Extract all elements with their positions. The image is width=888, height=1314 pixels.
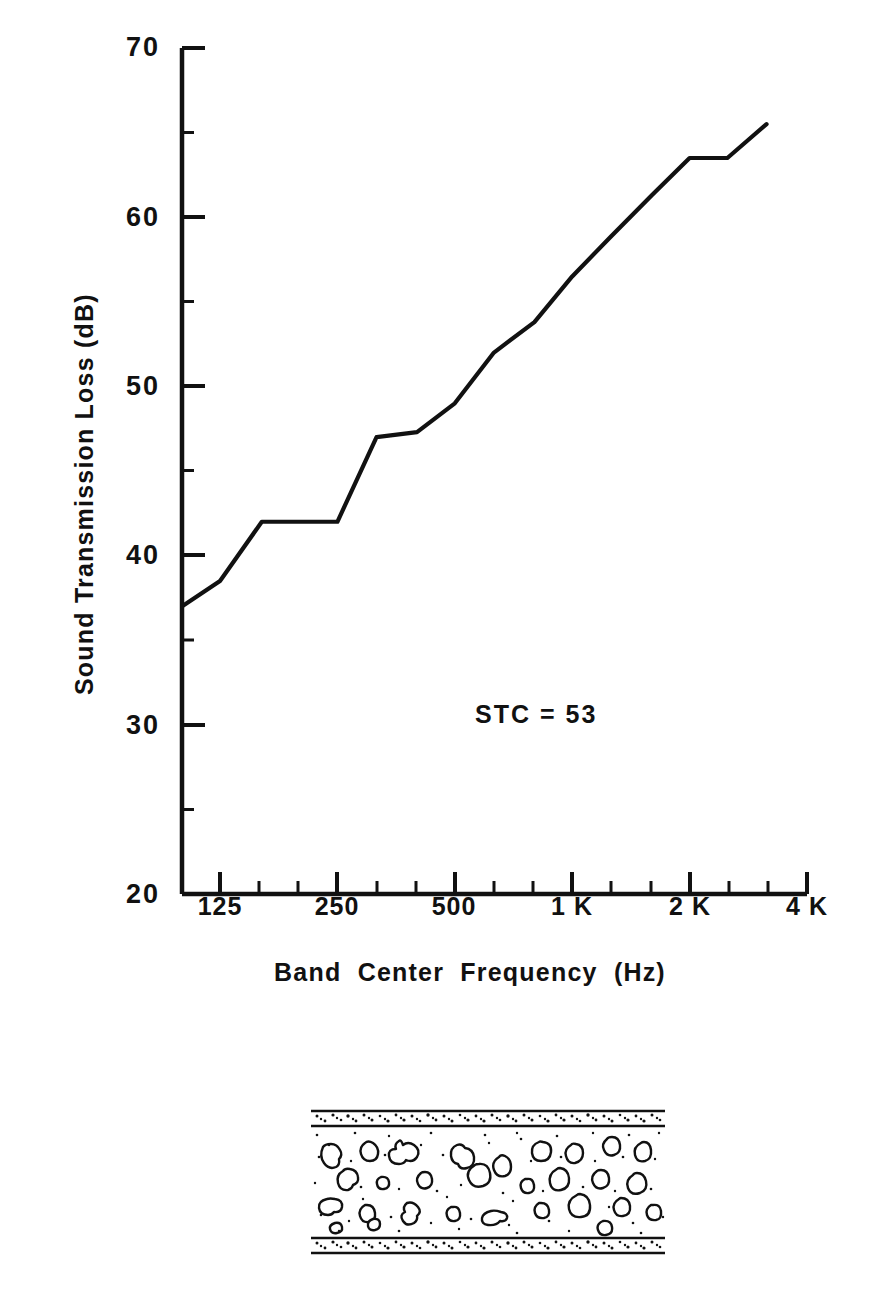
transmission-loss-curve xyxy=(182,124,766,606)
plaster-skin-top-stipple xyxy=(316,1113,662,1122)
x-major-ticks xyxy=(220,872,807,894)
aggregate-blobs xyxy=(319,1137,661,1235)
y-major-ticks xyxy=(182,48,205,725)
plaster-skin-bottom-stipple xyxy=(316,1240,662,1249)
figure-sound-transmission-loss: 70 60 50 40 30 20 125 250 500 1 K 2 K 4 … xyxy=(0,0,888,1314)
plot-area xyxy=(0,0,888,1000)
wall-cross-section-diagram xyxy=(303,1095,673,1280)
